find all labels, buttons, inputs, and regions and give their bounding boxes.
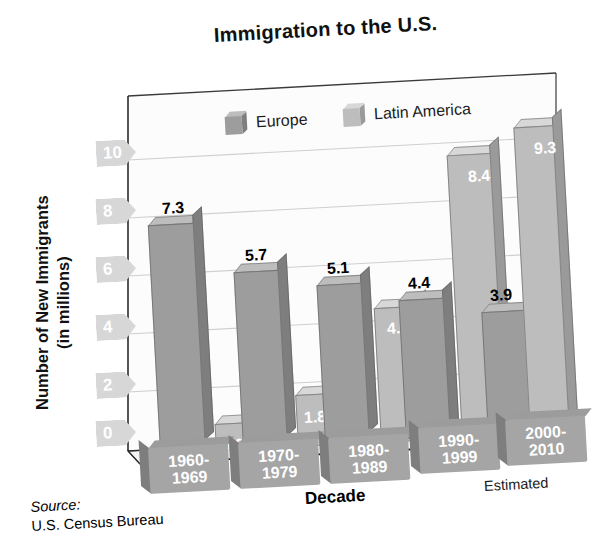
x-tick-1960-1969-line-2: 1969 <box>171 468 207 487</box>
estimated-annotation: Estimated <box>484 475 549 494</box>
legend-item-latin-america: Latin America <box>342 97 471 127</box>
y-tick-4: 4 <box>95 313 136 341</box>
legend-swatch-latin-america-cube-icon <box>342 103 365 127</box>
y-axis-title-line-2: (in millions) <box>53 168 74 438</box>
y-tick-2: 2 <box>95 371 136 399</box>
bar-europe-1960-1969 <box>148 223 206 451</box>
bar-value-europe-1970-1979: 5.7 <box>245 246 268 265</box>
immigration-bar-chart: Immigration to the U.S. Number of New Im… <box>0 0 595 547</box>
x-tick-2000-2010-line-2: 2010 <box>528 440 564 459</box>
bar-europe-1970-1979 <box>234 270 288 447</box>
x-tick-1990-1999-line-2: 1999 <box>441 448 477 467</box>
bar-value-latin-america-2000-2010: 9.3 <box>534 139 557 158</box>
x-tick-1960-1969: 1960- 1969 <box>148 444 230 494</box>
x-tick-1970-1979-line-2: 1979 <box>261 463 297 482</box>
bar-value-latin-america-1990-1999: 8.4 <box>468 167 491 186</box>
x-tick-2000-2010: 2000- 2010 <box>505 416 587 466</box>
y-tick-8: 8 <box>95 197 136 225</box>
x-axis-title: Decade <box>304 486 365 509</box>
bar-europe-1990-1999 <box>398 298 450 439</box>
legend-label-europe: Europe <box>255 110 307 131</box>
x-tick-1990-1999: 1990- 1999 <box>418 424 500 474</box>
legend-label-latin-america: Latin America <box>373 100 471 123</box>
y-axis-title-line-1: Number of New Immigrants <box>32 168 53 438</box>
bar-value-europe-1980-1989: 5.1 <box>327 259 350 278</box>
y-tick-0: 0 <box>95 419 136 447</box>
source-note: Source: U.S. Census Bureau <box>30 491 164 536</box>
legend-item-europe: Europe <box>224 108 308 135</box>
bar-value-europe-2000-2010: 3.9 <box>490 286 513 305</box>
y-axis-title: Number of New Immigrants (in millions) <box>32 168 73 438</box>
chart-title: Immigration to the U.S. <box>213 12 437 47</box>
bar-value-europe-1960-1969: 7.3 <box>162 199 185 218</box>
x-tick-1970-1979: 1970- 1979 <box>238 439 320 489</box>
x-tick-1980-1989-line-2: 1989 <box>351 458 387 477</box>
bar-europe-1980-1989 <box>316 283 369 443</box>
legend-swatch-europe-cube-icon <box>224 111 247 135</box>
bar-value-europe-1990-1999: 4.4 <box>408 274 431 293</box>
y-tick-6: 6 <box>95 255 136 283</box>
y-tick-10: 10 <box>95 139 136 167</box>
x-tick-1980-1989: 1980- 1989 <box>328 434 410 484</box>
